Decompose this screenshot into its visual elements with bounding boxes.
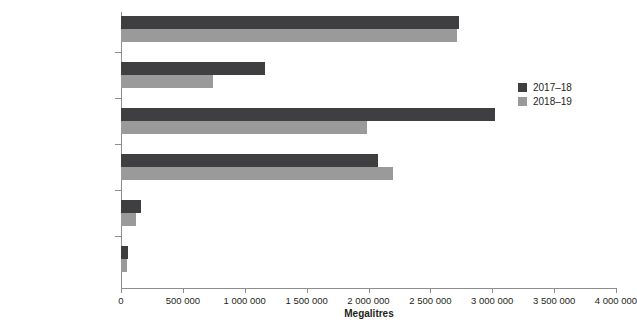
legend-label-2018-19: 2018–19 xyxy=(533,96,572,107)
bar-2017-18-1 xyxy=(121,16,459,29)
bar-2018-19-2 xyxy=(121,75,213,88)
bar-2018-19-5 xyxy=(121,213,136,226)
chart-category-row: Groundwater xyxy=(121,150,616,196)
bar-2018-19-1 xyxy=(121,29,457,42)
legend-label-2017-18: 2017–18 xyxy=(533,82,572,93)
x-axis-tick-label: 4 000 000 xyxy=(595,295,637,306)
bar-2018-19-4 xyxy=(121,167,393,180)
chart-category-row: Rivers, creeks, lakes xyxy=(121,104,616,150)
x-axis-tick-label: 3 000 000 xyxy=(471,295,513,306)
y-axis-tick xyxy=(115,144,121,145)
legend-swatch-2017-18 xyxy=(518,83,527,92)
x-axis-tick-label: 500 000 xyxy=(166,295,200,306)
y-axis-tick xyxy=(115,98,121,99)
y-axis-tick xyxy=(115,52,121,53)
bar-2018-19-6 xyxy=(121,259,127,272)
x-axis-tick xyxy=(492,288,493,293)
x-axis-tick-label: 0 xyxy=(118,295,123,306)
bar-2017-18-6 xyxy=(121,246,128,259)
x-axis-tick-label: 2 000 000 xyxy=(347,295,389,306)
x-axis-title: Megalitres xyxy=(121,308,617,319)
bar-2018-19-3 xyxy=(121,121,367,134)
x-axis-tick xyxy=(121,288,122,293)
plot-area: IrrigationOn-farm dams or tanksRivers, c… xyxy=(121,12,616,288)
x-axis-tick-label: 2 500 000 xyxy=(409,295,451,306)
x-axis-tick-label: 3 500 000 xyxy=(533,295,575,306)
bar-2017-18-5 xyxy=(121,200,141,213)
x-axis-tick xyxy=(430,288,431,293)
y-axis-tick xyxy=(115,236,121,237)
x-axis-tick xyxy=(307,288,308,293)
x-axis-tick xyxy=(183,288,184,293)
x-axis-tick-label: 1 500 000 xyxy=(285,295,327,306)
legend-swatch-2018-19 xyxy=(518,97,527,106)
y-axis-tick xyxy=(115,190,121,191)
legend-item-2017-18: 2017–18 xyxy=(518,80,572,94)
bar-2017-18-2 xyxy=(121,62,265,75)
chart-category-row: Recycled xyxy=(121,196,616,242)
legend: 2017–18 2018–19 xyxy=(518,80,572,108)
x-axis-tick xyxy=(554,288,555,293)
x-axis-tick-label: 1 000 000 xyxy=(224,295,266,306)
chart-category-row: Reticulated mains xyxy=(121,242,616,288)
bar-2017-18-4 xyxy=(121,154,378,167)
chart-category-row: Irrigation xyxy=(121,12,616,58)
x-axis-tick xyxy=(369,288,370,293)
bar-2017-18-3 xyxy=(121,108,495,121)
x-axis-tick xyxy=(616,288,617,293)
legend-item-2018-19: 2018–19 xyxy=(518,94,572,108)
x-axis-tick xyxy=(245,288,246,293)
